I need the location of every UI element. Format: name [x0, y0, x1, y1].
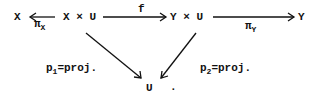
label-pi-y: πY [245, 21, 256, 32]
p2-base: p [200, 62, 207, 74]
node-y-times-u: Y × U [170, 12, 203, 23]
label-f: f [138, 4, 145, 15]
label-p1: p1=proj. [46, 63, 97, 74]
label-pi-x: πX [34, 19, 45, 30]
node-y: Y [298, 12, 305, 23]
node-x-times-u: X × U [63, 12, 96, 23]
pi-symbol: π [34, 18, 41, 30]
pi-symbol: π [245, 20, 252, 32]
arrows-layer [0, 0, 321, 97]
node-u: U [146, 83, 153, 94]
node-u-period: . [170, 82, 177, 93]
label-p2: p2=proj. [200, 63, 251, 74]
p2-text: =proj. [211, 62, 251, 74]
pi-y-subscript: Y [252, 25, 257, 34]
node-x: X [14, 12, 21, 23]
p1-text: =proj. [57, 62, 97, 74]
arrow-p2 [161, 33, 196, 78]
p1-subscript: 1 [53, 67, 58, 76]
p1-base: p [46, 62, 53, 74]
p2-subscript: 2 [207, 67, 212, 76]
pi-x-subscript: X [41, 23, 46, 32]
